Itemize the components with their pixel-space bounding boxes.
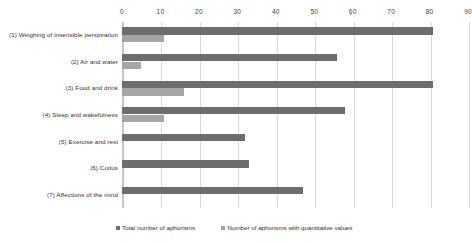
x-tick-label-10: 10	[157, 8, 165, 15]
chart-row: (5) Exercise and rest	[0, 128, 468, 155]
category-label-6: (6) Coitus	[2, 164, 118, 172]
bar-total-6	[122, 160, 249, 167]
x-tick-label-40: 40	[272, 8, 280, 15]
legend-item-2: Number of aphorisms with quantitative va…	[221, 224, 352, 231]
x-tick-label-30: 30	[234, 8, 242, 15]
bar-total-3	[122, 81, 433, 88]
legend-swatch-icon	[116, 226, 120, 230]
bar-total-5	[122, 134, 245, 141]
x-tick-label-60: 60	[349, 8, 357, 15]
bar-quantitative-1	[122, 35, 164, 42]
bar-total-4	[122, 107, 345, 114]
category-label-5: (5) Exercise and rest	[2, 138, 118, 146]
x-tick-label-90: 90	[464, 8, 472, 15]
category-label-1: (1) Weighing of insensible perspiration	[2, 31, 118, 39]
bar-total-1	[122, 27, 433, 34]
x-tick-label-0: 0	[120, 8, 124, 15]
legend-item-1: Total number of aphorisms	[116, 224, 195, 231]
gridline-90	[469, 22, 470, 208]
chart-legend: Total number of aphorismsNumber of aphor…	[0, 224, 468, 231]
chart-row: (1) Weighing of insensible perspiration	[0, 22, 468, 49]
chart-row: (6) Coitus	[0, 155, 468, 182]
chart-row: (3) Food and drink	[0, 75, 468, 102]
x-tick-label-20: 20	[195, 8, 203, 15]
category-label-7: (7) Affections of the mind	[2, 191, 118, 199]
bar-quantitative-3	[122, 88, 184, 95]
x-tick-label-70: 70	[387, 8, 395, 15]
category-label-2: (2) Air and water	[2, 58, 118, 66]
x-tick-label-50: 50	[310, 8, 318, 15]
chart-row: (7) Affections of the mind	[0, 181, 468, 208]
chart-row: (2) Air and water	[0, 49, 468, 76]
legend-label: Number of aphorisms with quantitative va…	[228, 224, 353, 231]
bar-quantitative-4	[122, 115, 164, 122]
bar-total-7	[122, 187, 303, 194]
chart-rows: (1) Weighing of insensible perspiration(…	[0, 22, 468, 208]
chart-row: (4) Sleep and wakefulness	[0, 102, 468, 129]
legend-label: Total number of aphorisms	[122, 224, 195, 231]
bar-total-2	[122, 54, 337, 61]
bar-quantitative-2	[122, 62, 141, 69]
category-label-3: (3) Food and drink	[2, 84, 118, 92]
category-label-4: (4) Sleep and wakefulness	[2, 111, 118, 119]
x-tick-label-80: 80	[426, 8, 434, 15]
legend-swatch-icon	[221, 226, 225, 230]
